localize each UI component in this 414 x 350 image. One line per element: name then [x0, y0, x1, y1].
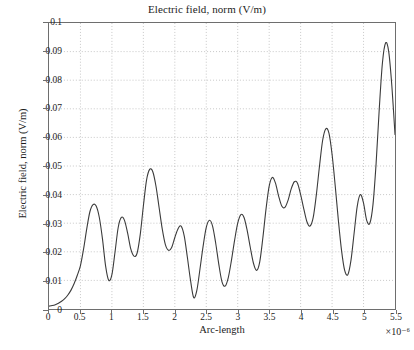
data-line-series — [49, 23, 395, 309]
y-tick-label: 0.07 — [22, 103, 62, 113]
x-tick-mark — [80, 310, 81, 314]
y-tick-label: 0.08 — [22, 75, 62, 85]
y-tick-mark — [43, 51, 48, 52]
y-tick-mark — [43, 252, 48, 253]
y-tick-label: 0.09 — [22, 46, 62, 56]
y-tick-label: 0.01 — [22, 276, 62, 286]
x-tick-label: 5.5 — [376, 312, 414, 322]
x-tick-mark — [143, 310, 144, 314]
y-tick-label: 0.05 — [22, 161, 62, 171]
x-tick-mark — [269, 310, 270, 314]
y-tick-mark — [43, 281, 48, 282]
x-tick-mark — [301, 310, 302, 314]
y-tick-label: 0.06 — [22, 132, 62, 142]
chart-figure: Electric field, norm (V/m) Electric fiel… — [0, 0, 414, 350]
x-tick-mark — [364, 310, 365, 314]
x-tick-mark — [206, 310, 207, 314]
x-tick-mark — [175, 310, 176, 314]
y-tick-mark — [43, 195, 48, 196]
y-tick-label: 0.1 — [22, 17, 62, 27]
y-tick-mark — [43, 224, 48, 225]
x-axis-multiplier: ×10⁻⁶ — [386, 326, 410, 337]
y-tick-mark — [43, 22, 48, 23]
y-tick-mark — [43, 166, 48, 167]
chart-title: Electric field, norm (V/m) — [0, 3, 414, 15]
x-axis-label: Arc-length — [48, 324, 396, 335]
x-tick-mark — [396, 310, 397, 314]
x-tick-mark — [48, 310, 49, 314]
y-tick-mark — [43, 80, 48, 81]
y-tick-mark — [43, 137, 48, 138]
plot-area — [48, 22, 396, 310]
x-tick-mark — [333, 310, 334, 314]
y-tick-label: 0.02 — [22, 247, 62, 257]
y-tick-label: 0.04 — [22, 190, 62, 200]
x-tick-mark — [238, 310, 239, 314]
y-tick-label: 0.03 — [22, 219, 62, 229]
y-tick-mark — [43, 108, 48, 109]
x-tick-mark — [111, 310, 112, 314]
